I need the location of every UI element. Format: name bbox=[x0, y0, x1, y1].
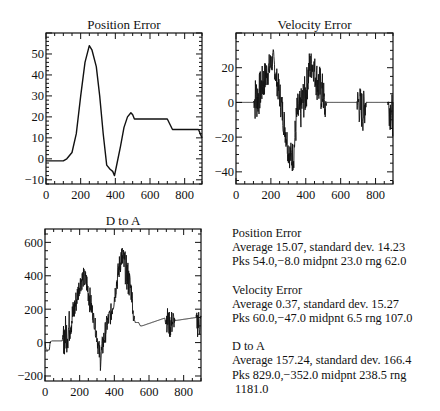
stats-average: Average 15.07, standard dev. 14.23 bbox=[232, 240, 412, 254]
x-tick-label: 400 bbox=[105, 385, 124, 399]
x-tick-label: 600 bbox=[140, 385, 159, 399]
stats-title: D to A bbox=[232, 339, 412, 353]
y-tick-label: 400 bbox=[24, 269, 43, 283]
y-tick-label: 200 bbox=[24, 303, 43, 317]
statistics-panel: Position Error Average 15.07, standard d… bbox=[232, 226, 412, 410]
y-tick-label: 600 bbox=[24, 236, 43, 250]
x-tick-label: 0 bbox=[42, 385, 48, 399]
stats-title: Velocity Error bbox=[232, 283, 412, 297]
chart-title: D to A bbox=[106, 213, 141, 228]
stats-average: Average 157.24, standard dev. 166.4 bbox=[232, 353, 412, 367]
stats-position-error: Position Error Average 15.07, standard d… bbox=[232, 226, 412, 269]
stats-peaks: Pks 829.0,−352.0 midpnt 238.5 rng bbox=[232, 368, 412, 382]
stats-range: 1181.0 bbox=[232, 382, 412, 396]
x-tick-label: 200 bbox=[70, 385, 89, 399]
y-tick-label: −200 bbox=[17, 369, 43, 383]
x-tick-label: 800 bbox=[174, 385, 193, 399]
stats-title: Position Error bbox=[232, 226, 412, 240]
stats-velocity-error: Velocity Error Average 0.37, standard de… bbox=[232, 283, 412, 326]
stats-average: Average 0.37, standard dev. 15.27 bbox=[232, 297, 412, 311]
stats-d-to-a: D to A Average 157.24, standard dev. 166… bbox=[232, 339, 412, 396]
stats-peaks: Pks 54.0,−8.0 midpnt 23.0 rng 62.0 bbox=[232, 254, 412, 268]
y-tick-label: 0 bbox=[37, 336, 43, 350]
stats-peaks: Pks 60.0,−47.0 midpnt 6.5 rng 107.0 bbox=[232, 311, 412, 325]
data-line bbox=[45, 248, 201, 371]
